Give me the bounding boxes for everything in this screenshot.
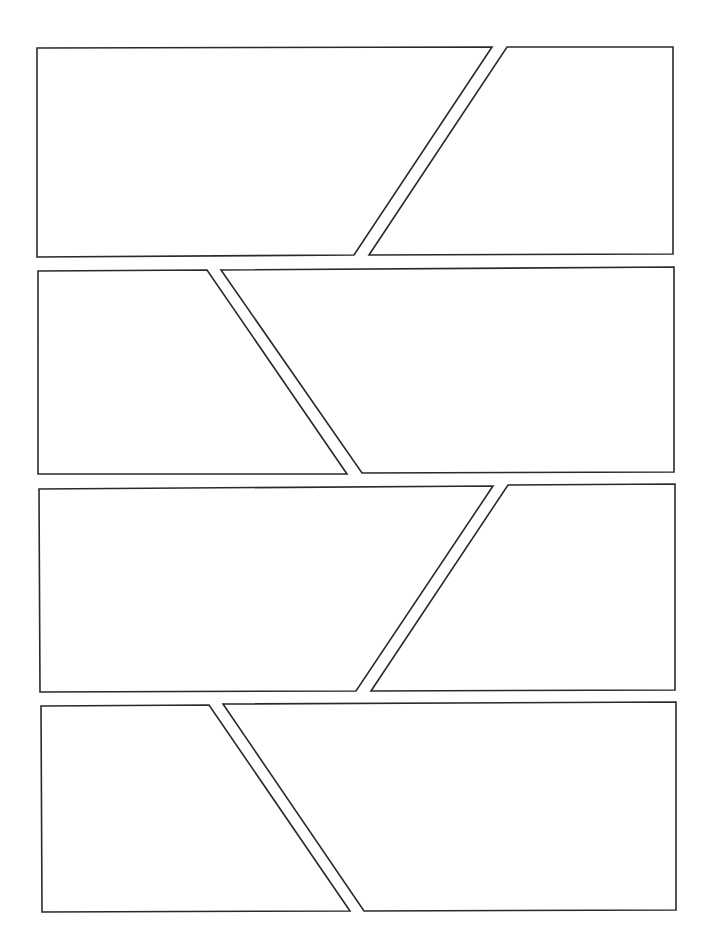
panel-layout bbox=[0, 0, 714, 951]
comic-page bbox=[0, 0, 714, 951]
